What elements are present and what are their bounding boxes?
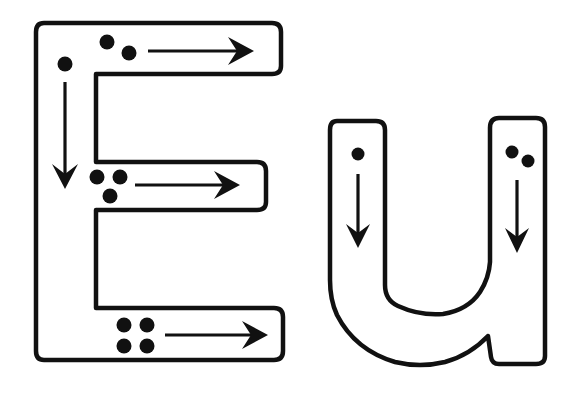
stroke-dot: [103, 189, 118, 204]
stroke-dot: [140, 339, 155, 354]
letter-tracing-worksheet: [0, 0, 577, 414]
stroke-dot: [100, 35, 115, 50]
stroke-dot: [522, 155, 535, 168]
stroke-dot: [506, 146, 519, 159]
stroke-dot: [140, 318, 155, 333]
stroke-dot: [113, 170, 128, 185]
stroke-dot: [352, 148, 365, 161]
stroke-dot: [90, 170, 105, 185]
stroke-dot: [117, 318, 132, 333]
letter-e-outline: [36, 23, 283, 360]
stroke-dot: [58, 57, 73, 72]
stroke-dot: [117, 339, 132, 354]
letter-u: [330, 118, 545, 365]
letter-e: [36, 23, 283, 360]
stroke-dot: [122, 46, 137, 61]
